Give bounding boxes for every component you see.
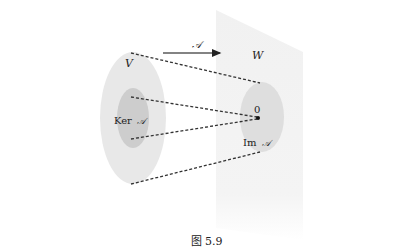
kernel-label: Ker 𝒜 — [114, 115, 148, 126]
zero-point — [256, 116, 260, 120]
image-label: Im 𝒜 — [243, 137, 273, 148]
kernel-label-prefix: Ker — [114, 115, 132, 126]
linear-map-diagram: 𝒜 V W Ker 𝒜 0 Im 𝒜 — [0, 0, 413, 251]
figure-caption: 图 5.9 — [0, 232, 413, 248]
image-label-prefix: Im — [243, 137, 257, 148]
domain-label-v: V — [125, 57, 134, 70]
codomain-label-w: W — [252, 49, 265, 62]
zero-label: 0 — [254, 104, 260, 115]
mapping-label: 𝒜 — [192, 39, 205, 50]
